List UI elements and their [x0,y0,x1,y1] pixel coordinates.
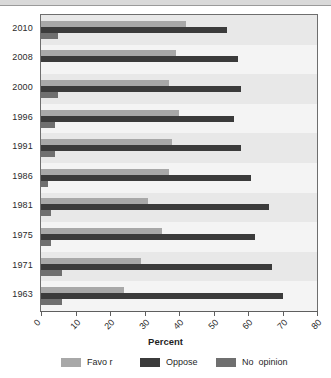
y-tick-label-2008: 2008 [12,53,33,62]
bar-1971-no-opinion [41,270,62,276]
x-tick-label-20: 20 [103,318,116,331]
x-tick-0 [41,312,42,316]
x-axis-title: Percent [0,336,331,347]
y-tick-label-1981: 1981 [12,201,33,210]
bar-2010-oppose [41,27,227,33]
y-axis-labels: 2010200820001996199119861981197519711963 [0,14,36,312]
bar-1975-oppose [41,234,255,240]
legend-swatch-icon [216,358,236,367]
x-tick-50 [214,312,215,316]
bar-1991-no-opinion [41,151,55,157]
bar-2000-oppose [41,86,241,92]
bar-1991-oppose [41,145,241,151]
chart-legend: Favo rOpposeNo opinion [0,356,331,372]
y-tick-label-1986: 1986 [12,172,33,181]
bar-1981-no-opinion [41,210,51,216]
scan-artifact-top [0,0,331,6]
legend-label: Oppose [166,357,198,367]
plot-area [40,14,318,312]
legend-item-favor[interactable]: Favo r [61,356,113,368]
x-tick-60 [248,312,249,316]
bar-2000-no-opinion [41,92,58,98]
legend-label: No opinion [242,357,288,367]
bar-1971-oppose [41,264,272,270]
x-tick-label-70: 70 [275,318,288,331]
y-tick-label-2000: 2000 [12,83,33,92]
legend-label: Favo r [87,357,113,367]
y-tick-label-1963: 1963 [12,290,33,299]
y-tick-label-1971: 1971 [12,261,33,270]
x-tick-10 [76,312,77,316]
legend-swatch-icon [61,358,81,367]
bar-1975-no-opinion [41,240,51,246]
x-tick-label-0: 0 [32,318,42,328]
bar-1981-oppose [41,204,269,210]
x-tick-30 [145,312,146,316]
bar-chart: 2010200820001996199119861981197519711963… [0,0,331,378]
legend-item-oppose[interactable]: Oppose [140,356,198,368]
x-tick-label-30: 30 [137,318,150,331]
bar-1986-no-opinion [41,181,48,187]
x-tick-label-10: 10 [68,318,81,331]
bar-1986-oppose [41,175,251,181]
x-tick-80 [317,312,318,316]
bar-1963-no-opinion [41,299,62,305]
bar-1996-oppose [41,116,234,122]
bar-1996-no-opinion [41,122,55,128]
x-tick-40 [179,312,180,316]
x-tick-label-80: 80 [310,318,323,331]
y-tick-label-2010: 2010 [12,24,33,33]
x-tick-label-40: 40 [172,318,185,331]
legend-item-no-opinion[interactable]: No opinion [216,356,288,368]
x-tick-20 [110,312,111,316]
x-tick-70 [283,312,284,316]
legend-swatch-icon [140,358,160,367]
y-tick-label-1996: 1996 [12,113,33,122]
bar-2008-oppose [41,56,238,62]
bar-2010-no-opinion [41,33,58,39]
bar-1963-oppose [41,293,283,299]
y-tick-label-1991: 1991 [12,142,33,151]
x-tick-label-60: 60 [241,318,254,331]
x-tick-label-50: 50 [206,318,219,331]
y-tick-label-1975: 1975 [12,231,33,240]
